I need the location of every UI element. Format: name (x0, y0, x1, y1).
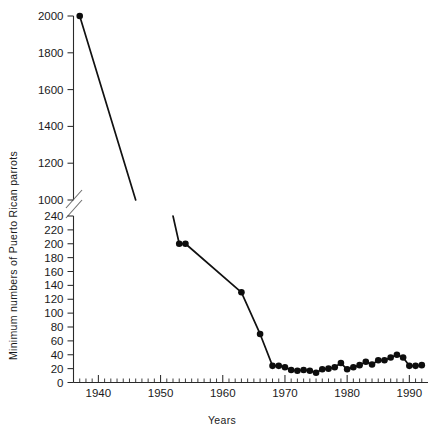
data-point (182, 240, 189, 247)
y-tick-label-lower: 0 (57, 377, 63, 389)
axis-lines (74, 16, 429, 383)
y-tick-label-lower: 80 (51, 321, 64, 333)
x-tick-label: 1960 (210, 387, 236, 399)
data-point (369, 361, 376, 368)
series-path-upper (80, 16, 136, 200)
y-tick-label-lower: 200 (44, 238, 63, 250)
y-tick-label-upper: 1000 (38, 194, 64, 206)
x-tick-label: 1940 (86, 387, 112, 399)
y-tick-label-upper: 1600 (38, 84, 64, 96)
data-point (319, 366, 326, 373)
data-point (338, 360, 345, 367)
y-tick-label-upper: 2000 (38, 10, 64, 22)
series-upper-segment (76, 13, 135, 200)
y-tick-label-lower: 60 (51, 335, 64, 347)
y-tick-label-lower: 40 (51, 349, 64, 361)
data-point (269, 363, 276, 370)
y-tick-label-lower: 20 (51, 363, 64, 375)
chart-container: Minimum numbers of Puerto Rican parrots … (0, 0, 444, 441)
x-axis-title: Years (208, 414, 236, 426)
x-tick-label: 1950 (148, 387, 174, 399)
y-tick-label-upper: 1400 (38, 120, 64, 132)
data-point (356, 362, 363, 369)
data-point (344, 366, 351, 373)
data-point (363, 358, 370, 365)
data-point (238, 289, 245, 296)
parrot-population-line-chart: Minimum numbers of Puerto Rican parrots … (0, 0, 444, 441)
y-tick-label-lower: 100 (44, 307, 63, 319)
y-tick-label-lower: 120 (44, 293, 63, 305)
data-point (406, 363, 413, 370)
data-point (400, 354, 407, 361)
y-tick-label-lower: 140 (44, 279, 63, 291)
y-axis-lower-ticks: 020406080100120140160180200220240 (44, 210, 73, 389)
x-axis-ticks: 194019501960197019801990 (80, 375, 422, 399)
y-tick-label-lower: 220 (44, 224, 63, 236)
y-axis-upper-ticks: 100012001400160018002000 (38, 10, 74, 206)
x-tick-label: 1980 (334, 387, 360, 399)
data-point (325, 365, 332, 372)
data-point (275, 363, 282, 370)
y-tick-label-lower: 180 (44, 252, 63, 264)
data-point (381, 357, 388, 364)
data-point (307, 367, 314, 374)
data-point (387, 354, 394, 361)
data-point (350, 364, 357, 371)
data-point (257, 331, 264, 338)
y-axis-title: Minimum numbers of Puerto Rican parrots (7, 151, 19, 360)
x-tick-label: 1990 (397, 387, 423, 399)
series-lower-segment (173, 216, 425, 376)
data-point (375, 357, 382, 364)
data-point (313, 369, 320, 376)
data-point (412, 363, 419, 370)
series-path-lower (173, 216, 422, 373)
data-point (300, 367, 307, 374)
y-tick-label-lower: 160 (44, 266, 63, 278)
data-point (288, 367, 295, 374)
y-tick-label-upper: 1800 (38, 47, 64, 59)
data-point (282, 364, 289, 371)
y-tick-label-upper: 1200 (38, 157, 64, 169)
x-tick-label: 1970 (272, 387, 298, 399)
data-point (331, 364, 338, 371)
data-point (76, 13, 83, 20)
data-point (418, 362, 425, 369)
data-point (294, 367, 301, 374)
y-tick-label-lower: 240 (44, 210, 63, 222)
data-point (176, 240, 183, 247)
data-point (394, 351, 401, 358)
